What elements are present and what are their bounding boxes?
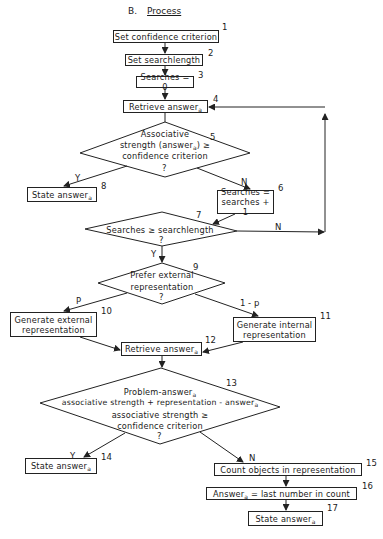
subscript: a — [88, 194, 92, 201]
step-number-1: 1 — [222, 22, 227, 32]
step-text: Retrieve answer — [125, 344, 194, 354]
step-set-confidence-criterion: Set confidence criterion — [113, 30, 219, 43]
decision-13-question: ? — [157, 431, 162, 441]
subscript: a — [194, 348, 198, 355]
step-label: Set searchlength — [128, 55, 201, 65]
step-number-11: 11 — [320, 311, 331, 321]
edge-5-no-label: N — [241, 177, 247, 187]
edge-13-no-label: N — [249, 453, 255, 463]
subscript: a — [198, 106, 202, 113]
step-number-15: 15 — [366, 458, 377, 468]
decision-13-line3: associative strength ≥ — [100, 410, 220, 420]
step-text: State answer — [255, 514, 311, 524]
edge-5-yes-label: Y — [75, 173, 80, 183]
step-number-16: 16 — [362, 481, 373, 491]
step-number-13: 13 — [226, 378, 237, 388]
step-number-10: 10 — [101, 306, 112, 316]
step-count-objects: Count objects in representation — [214, 463, 362, 476]
step-label: Answera = last number in count — [213, 489, 350, 499]
step-set-searchlength: Set searchlength — [125, 54, 203, 66]
step-number-14: 14 — [101, 452, 112, 462]
title-text: Process — [147, 6, 181, 16]
decision-5-question: ? — [162, 163, 167, 173]
step-generate-internal-representation: Generate internal representation — [233, 317, 316, 342]
step-state-answer-17: State answera — [248, 511, 323, 526]
title-prefix: B. — [128, 6, 137, 16]
step-state-answer-8: State answera — [27, 187, 97, 202]
step-number-2: 2 — [208, 48, 213, 58]
edge-7-no-label: N — [275, 222, 281, 232]
step-label: Retrieve answera — [125, 344, 198, 354]
step-searches-zero: Searches = 0 — [136, 76, 194, 88]
text: associative strength + representation - … — [62, 398, 255, 407]
edge-9-1-minus-p-label: 1 - p — [240, 298, 259, 308]
step-number-8: 8 — [101, 181, 106, 191]
diagram-title: B.Process — [128, 6, 181, 16]
step-generate-external-representation: Generate external representation — [10, 312, 97, 337]
step-number-4: 4 — [213, 94, 218, 104]
step-label: State answera — [31, 461, 91, 471]
step-text: State answer — [32, 190, 88, 200]
step-label: State answera — [32, 190, 92, 200]
decision-5-line2: strength (answera) ≥ — [105, 140, 225, 150]
decision-13-line4: confidence criterion — [100, 421, 220, 431]
subscript: a — [87, 465, 91, 472]
decision-7-text: Searches ≥ searchlength — [100, 225, 220, 235]
text: ) ≥ — [197, 140, 210, 150]
step-text: Answer — [213, 489, 244, 499]
decision-7-question: ? — [159, 235, 164, 245]
step-number-3: 3 — [198, 70, 203, 80]
step-label-line1: Generate external — [15, 315, 93, 325]
step-label-line2: representation — [22, 325, 85, 335]
step-text: = last number in count — [248, 489, 350, 499]
subscript: a — [192, 391, 196, 398]
step-retrieve-answer: Retrieve answera — [123, 100, 208, 113]
edge-9-p-label: P — [76, 296, 81, 306]
step-label: State answera — [255, 514, 315, 524]
subscript: a — [254, 401, 258, 408]
decision-9-line2: representation — [112, 282, 212, 292]
step-text: Retrieve answer — [129, 102, 198, 112]
step-label-line1: Generate internal — [237, 320, 313, 330]
decision-5-line1: Associative — [115, 129, 215, 139]
step-state-answer-14: State answera — [25, 458, 97, 474]
step-answer-last-number: Answera = last number in count — [206, 487, 357, 500]
step-increment-searches: Searches = searches + 1 — [217, 190, 274, 214]
step-label-line1: Searches = — [221, 187, 270, 197]
step-number-12: 12 — [205, 335, 216, 345]
step-number-6: 6 — [278, 183, 283, 193]
text: Problem-answer — [124, 387, 193, 397]
step-number-17: 17 — [327, 503, 338, 513]
decision-13-line2: associative strength + representation - … — [40, 398, 280, 408]
edge-7-yes-label: Y — [151, 249, 156, 259]
step-label: Set confidence criterion — [115, 32, 218, 42]
step-number-5: 5 — [210, 132, 215, 142]
text: strength (answer — [120, 140, 193, 150]
subscript: a — [312, 518, 316, 525]
step-text: State answer — [31, 461, 87, 471]
step-number-9: 9 — [193, 262, 198, 272]
step-label: Count objects in representation — [220, 465, 355, 475]
step-label: Searches = 0 — [137, 72, 193, 92]
step-label-line2: representation — [243, 330, 306, 340]
step-retrieve-answer-12: Retrieve answera — [121, 342, 202, 356]
decision-9-question: ? — [159, 292, 164, 302]
step-label-line2: searches + 1 — [218, 197, 273, 217]
step-label: Retrieve answera — [129, 102, 202, 112]
decision-13-line1: Problem-answera — [100, 387, 220, 397]
step-number-7: 7 — [196, 210, 201, 220]
decision-5-line3: confidence criterion — [105, 151, 225, 161]
